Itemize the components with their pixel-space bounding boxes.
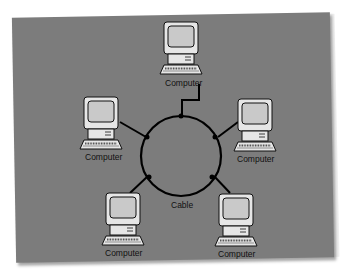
connection-cables	[120, 84, 238, 193]
tap-point-top	[179, 114, 184, 119]
computer-icon	[102, 193, 144, 245]
computer-node-right: Computer	[234, 99, 276, 164]
computer-label: Computer	[85, 152, 122, 162]
computer-node-left: Computer	[80, 97, 122, 162]
computer-label: Computer	[237, 154, 274, 164]
computer-node-top: Computer	[160, 22, 202, 88]
cable-label: Cable	[171, 200, 193, 210]
computer-icon	[234, 99, 276, 151]
ring-topology-diagram: Cable Computer Computer Computer Compute…	[0, 0, 350, 278]
cable-ring	[141, 114, 221, 197]
computer-icon	[160, 22, 202, 74]
computer-label: Computer	[218, 249, 255, 259]
tap-point-bottom-right	[210, 175, 215, 180]
tap-point-bottom-left	[147, 175, 152, 180]
computer-label: Computer	[165, 78, 202, 88]
tap-point-left	[145, 135, 150, 140]
tap-point-right	[213, 135, 218, 140]
computer-label: Computer	[105, 248, 142, 258]
computer-icon	[80, 97, 122, 149]
computer-node-bottom-left: Computer	[102, 193, 144, 258]
computer-icon	[215, 194, 257, 246]
computer-node-bottom-right: Computer	[215, 194, 257, 259]
